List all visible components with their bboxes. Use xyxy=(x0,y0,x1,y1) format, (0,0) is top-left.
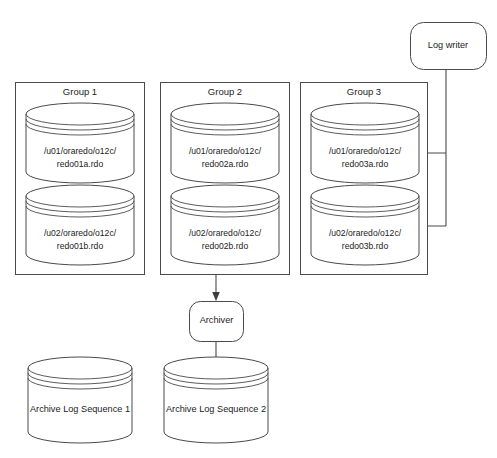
group-3-member-1-path-line1: /u01/oraredo/o12c/ xyxy=(329,146,402,156)
group-2-member-2-cylinder[interactable]: /u02/oraredo/o12c/ redo02b.rdo xyxy=(171,185,279,265)
group-3-member-1-cylinder[interactable]: /u01/oraredo/o12c/ redo03a.rdo xyxy=(311,103,419,183)
archive-log-2-cylinder[interactable]: Archive Log Sequence 2 xyxy=(164,357,268,443)
cylinder-body-3b xyxy=(311,185,419,265)
group-1-label: Group 1 xyxy=(63,86,97,97)
archive-log-1-cylinder[interactable]: Archive Log Sequence 1 xyxy=(28,357,132,443)
group-2-member-1-path-line1: /u01/oraredo/o12c/ xyxy=(189,146,262,156)
group-3-container[interactable]: Group 3 /u01/oraredo/o12c/ redo03a.rdo /… xyxy=(301,83,428,275)
cylinder-body-1b xyxy=(26,185,134,265)
group-3-member-1-path-line2: redo03a.rdo xyxy=(342,159,389,169)
archiver-node[interactable]: Archiver xyxy=(190,302,244,342)
archive-log-2-label: Archive Log Sequence 2 xyxy=(166,404,266,414)
arrowhead-archiver-in xyxy=(212,292,220,301)
group-3-member-2-path-line1: /u02/oraredo/o12c/ xyxy=(329,228,402,238)
group-1-member-1-path-line1: /u01/oraredo/o12c/ xyxy=(44,146,117,156)
redo-log-diagram: Group 1 /u01/oraredo/o12c/ redo01a.rdo /… xyxy=(0,0,497,458)
cylinder-body-3a xyxy=(311,103,419,183)
group-1-member-1-path-line2: redo01a.rdo xyxy=(57,159,104,169)
group-2-member-2-path-line1: /u02/oraredo/o12c/ xyxy=(189,228,262,238)
group-2-member-2-path-line2: redo02b.rdo xyxy=(202,241,249,251)
log-writer-node[interactable]: Log writer xyxy=(411,23,487,70)
diagram-canvas: Group 1 /u01/oraredo/o12c/ redo01a.rdo /… xyxy=(0,0,497,458)
group-1-member-2-cylinder[interactable]: /u02/oraredo/o12c/ redo01b.rdo xyxy=(26,185,134,265)
group-2-container[interactable]: Group 2 /u01/oraredo/o12c/ redo02a.rdo /… xyxy=(161,83,290,275)
cylinder-body-2b xyxy=(171,185,279,265)
cylinder-body-1a xyxy=(26,103,134,183)
cylinder-body-2a xyxy=(171,103,279,183)
cylinder-body-archive-1 xyxy=(28,357,132,443)
group-2-member-1-path-line2: redo02a.rdo xyxy=(202,159,249,169)
group-2-member-1-cylinder[interactable]: /u01/oraredo/o12c/ redo02a.rdo xyxy=(171,103,279,183)
group-2-label: Group 2 xyxy=(208,86,242,97)
group-1-container[interactable]: Group 1 /u01/oraredo/o12c/ redo01a.rdo /… xyxy=(16,83,145,275)
cylinder-body-archive-2 xyxy=(164,357,268,443)
group-3-member-2-cylinder[interactable]: /u02/oraredo/o12c/ redo03b.rdo xyxy=(311,185,419,265)
archiver-label: Archiver xyxy=(200,315,234,325)
group-1-member-2-path-line1: /u02/oraredo/o12c/ xyxy=(44,228,117,238)
group-1-member-2-path-line2: redo01b.rdo xyxy=(57,241,104,251)
group-1-member-1-cylinder[interactable]: /u01/oraredo/o12c/ redo01a.rdo xyxy=(26,103,134,183)
group-3-label: Group 3 xyxy=(347,86,381,97)
group-3-member-2-path-line2: redo03b.rdo xyxy=(342,241,389,251)
log-writer-label: Log writer xyxy=(428,40,468,50)
archive-log-1-label: Archive Log Sequence 1 xyxy=(30,404,130,414)
